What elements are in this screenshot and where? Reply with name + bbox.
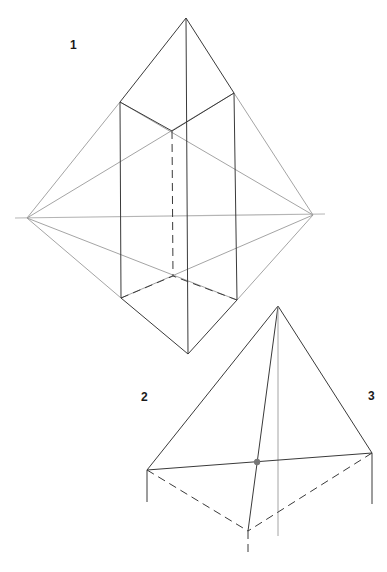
back-vertical-hidden	[172, 131, 173, 276]
horizon-line	[15, 214, 325, 218]
construction-line	[234, 93, 313, 215]
construction-line	[27, 218, 121, 298]
central-axis	[186, 18, 188, 354]
figure-1-prism	[15, 18, 325, 354]
right-vertical	[234, 93, 237, 300]
bottom-apex-right-edge	[188, 300, 237, 354]
apex-front-edge	[248, 306, 278, 531]
figure-label-2: 2	[141, 390, 148, 404]
construction-line	[120, 102, 313, 215]
left-vertical	[120, 102, 121, 298]
base-left-hidden	[147, 470, 248, 531]
apex-left-edge	[147, 306, 278, 470]
top-face-right	[172, 93, 234, 131]
centroid-dot	[254, 459, 260, 465]
construction-line	[27, 102, 120, 218]
perspective-diagram	[0, 0, 387, 572]
top-apex-right-edge	[186, 18, 234, 93]
base-right-hidden	[248, 453, 372, 531]
figure-label-1: 1	[70, 38, 77, 52]
construction-line	[237, 215, 313, 300]
apex-right-edge	[278, 306, 372, 453]
figure-2-pyramid	[147, 306, 372, 552]
bottom-apex-left-edge	[121, 298, 188, 354]
top-apex-left-edge	[120, 18, 186, 102]
top-face-left	[120, 102, 172, 131]
figure-label-3: 3	[368, 389, 375, 403]
